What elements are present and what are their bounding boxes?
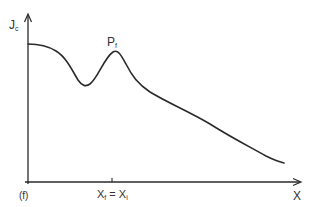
y-axis-label: Jc (9, 19, 19, 32)
peak-label: Pf (107, 36, 117, 49)
x-axis-label: X (293, 190, 301, 202)
jc-curve (28, 44, 284, 163)
y-axis-label-sub: c (15, 25, 19, 32)
x-tick-label-right-sub: i (126, 194, 128, 201)
origin-label: (f) (19, 191, 28, 201)
chart-canvas (0, 0, 315, 207)
x-tick-label-equals: = (106, 188, 119, 200)
peak-label-main: P (107, 35, 115, 49)
x-tick-label: Xf = Xi (97, 189, 128, 201)
peak-label-sub: f (115, 42, 117, 49)
